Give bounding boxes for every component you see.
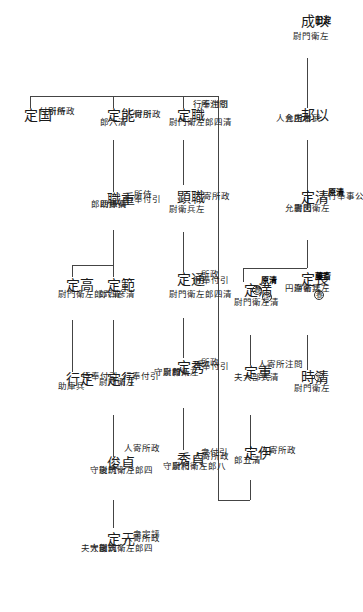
line-takasada-sadayuki <box>72 320 73 372</box>
person-note: 政所寄人 <box>122 444 158 453</box>
person-note: 問注所寄人 <box>256 360 301 369</box>
person-note: 政所寄人 <box>258 446 294 455</box>
line-norisada-yukisada <box>113 320 114 372</box>
person-note: 引付奉行 <box>123 195 159 204</box>
line-shigesada-iesada <box>250 415 251 450</box>
line-yoshisada-shigemoto <box>113 140 114 192</box>
line-to-yoshisada <box>113 96 114 108</box>
line-iesada-down <box>250 480 251 500</box>
person-note: 式部大夫 <box>79 544 115 553</box>
person-note: 引付奉行 <box>191 100 227 109</box>
person-note: 清左衛門尉 <box>232 298 277 307</box>
person-note: 左兵衛尉 <box>167 205 203 214</box>
person-note: 引付 <box>37 107 55 116</box>
line-to-norisada <box>113 265 114 277</box>
person-note: 政所寄人 <box>122 534 158 543</box>
line-sadatoshi-motosada <box>113 500 114 528</box>
line-motoaki-michisada <box>183 232 184 272</box>
person-note: 清六郎 <box>98 118 125 127</box>
person-note: 左衛門尉 <box>291 32 327 41</box>
person-note: 兵庫助 <box>56 382 83 391</box>
line-hidesada-sadahide <box>183 408 184 450</box>
person-note: 公事奉行人 <box>317 192 362 201</box>
person-note: 図書允 <box>283 204 310 213</box>
line-motosada-motoaki <box>183 140 184 185</box>
adopted-mark: 養 <box>252 285 262 295</box>
person-note: 内舎人 <box>274 114 301 123</box>
clan-label: 斎藤 <box>314 272 330 280</box>
person-note: 清四郎左衛門尉 <box>167 118 230 127</box>
line-top-branch <box>30 96 218 97</box>
person-note: 和泉守 <box>161 462 188 471</box>
person-note: 清式部大夫 <box>232 373 277 382</box>
line-iesada-bottom <box>218 500 250 501</box>
number-mark: ① <box>314 372 324 382</box>
line-kiyosada-branch <box>243 268 307 269</box>
person-note: 左衛門尉 <box>97 378 133 387</box>
line-to-mitsusada <box>243 268 244 282</box>
person-note: 政所寄人 <box>191 452 227 461</box>
person-note: 清五郎 <box>232 456 259 465</box>
person-note: 引付奉行 <box>191 276 227 285</box>
clan-label: 清原 <box>260 276 276 284</box>
line-mochinari-mochikuni <box>307 58 308 108</box>
person-note: 左衛門尉 <box>292 384 328 393</box>
person-note: 法名浄円 <box>283 284 319 293</box>
person-note: 筑後守 <box>88 466 115 475</box>
line-kiyosada-nagasada <box>307 240 308 268</box>
line-to-motosada-s <box>183 96 184 108</box>
person-note: 清四郎左衛門尉 <box>167 290 230 299</box>
person-note: 清孫四郎 <box>89 200 125 209</box>
person-note: 政所寄人 <box>192 192 228 201</box>
line-to-kunisada <box>30 96 31 108</box>
clan-label: 淀田 <box>314 16 330 24</box>
line-shigemoto-down <box>113 230 114 265</box>
line-nagasada-kiyotoki <box>307 335 308 370</box>
line-yukisada-sadatoshi <box>113 415 114 457</box>
line-michisada-hidesada <box>183 318 184 358</box>
line-mitsusada-shigesada <box>250 335 251 365</box>
line-to-takasada <box>72 265 73 277</box>
person-note: 政所寄人 <box>123 110 159 119</box>
person-note: 清彦四郎 <box>97 290 133 299</box>
line-shigemoto-branch <box>72 265 113 266</box>
